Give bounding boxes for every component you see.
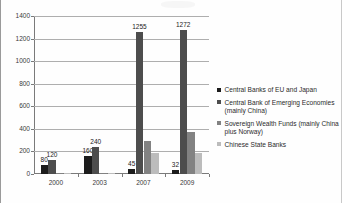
- bar-value-label: 1255: [132, 24, 146, 31]
- bar-value-label: 32: [172, 162, 179, 169]
- x-axis-tick: [165, 174, 166, 177]
- x-axis-tick: [78, 174, 79, 177]
- legend-swatch-icon: [217, 88, 221, 92]
- bar: [187, 132, 194, 174]
- y-axis-tick: [31, 151, 34, 152]
- legend-label: Chinese State Banks: [225, 141, 287, 149]
- bar: [92, 147, 99, 174]
- x-axis-tick: [209, 174, 210, 177]
- y-axis-tick-label: 1200: [16, 35, 30, 42]
- bar: [48, 160, 55, 174]
- bar-value-label: 120: [47, 152, 58, 159]
- y-axis-tick: [31, 39, 34, 40]
- x-axis-tick-label: 2003: [92, 180, 106, 187]
- y-axis-tick-label: 1000: [16, 58, 30, 65]
- y-axis-tick-label: 400: [19, 126, 30, 133]
- bar-group: 451255: [128, 16, 159, 174]
- legend-label: Sovereign Wealth Funds (mainly China plu…: [225, 120, 342, 136]
- plot-area: 0200400600800100012001400 80120160240451…: [34, 16, 209, 174]
- legend-item: Central Banks of EU and Japan: [217, 86, 341, 94]
- y-axis-tick-label: 0: [26, 171, 30, 178]
- y-axis-tick-label: 1400: [16, 13, 30, 20]
- scan-artifact: [161, 1, 195, 8]
- bar-group: 80120: [41, 16, 72, 174]
- bar: [56, 173, 63, 174]
- bar: [108, 173, 115, 174]
- chart-legend: Central Banks of EU and JapanCentral Ban…: [217, 86, 341, 153]
- legend-label: Central Bank of Emerging Economies (main…: [225, 99, 342, 115]
- bar-value-label: 45: [128, 161, 135, 168]
- bar: [151, 153, 158, 174]
- bar: [136, 32, 143, 174]
- chart-figure: 0200400600800100012001400 80120160240451…: [0, 0, 342, 203]
- bar: [41, 165, 48, 174]
- y-axis-tick: [31, 84, 34, 85]
- bar: [84, 156, 91, 174]
- y-axis-tick: [31, 129, 34, 130]
- x-axis-tick: [122, 174, 123, 177]
- bar: [64, 173, 71, 174]
- y-axis-tick-label: 200: [19, 148, 30, 155]
- legend-label: Central Banks of EU and Japan: [225, 86, 317, 94]
- legend-item: Chinese State Banks: [217, 141, 341, 149]
- bar-value-label: 240: [90, 139, 101, 146]
- bar-group: 321272: [172, 16, 203, 174]
- y-axis-tick: [31, 16, 34, 17]
- legend-swatch-icon: [217, 100, 221, 104]
- y-axis-tick: [31, 61, 34, 62]
- x-axis-tick-label: 2007: [136, 180, 150, 187]
- y-axis-tick-label: 600: [19, 103, 30, 110]
- x-axis-tick-label: 2009: [180, 180, 194, 187]
- bar: [172, 170, 179, 174]
- bar-group: 160240: [84, 16, 115, 174]
- bar: [144, 141, 151, 174]
- legend-swatch-icon: [217, 142, 221, 146]
- y-axis-tick: [31, 174, 34, 175]
- y-axis-tick: [31, 106, 34, 107]
- bar: [195, 153, 202, 174]
- bar-value-label: 1272: [176, 22, 190, 29]
- x-axis-tick-label: 2000: [49, 180, 63, 187]
- bar: [100, 173, 107, 174]
- bar: [180, 30, 187, 174]
- legend-item: Sovereign Wealth Funds (mainly China plu…: [217, 120, 341, 136]
- bar: [128, 169, 135, 174]
- y-axis-tick-label: 800: [19, 80, 30, 87]
- legend-item: Central Bank of Emerging Economies (main…: [217, 99, 341, 115]
- legend-swatch-icon: [217, 121, 221, 125]
